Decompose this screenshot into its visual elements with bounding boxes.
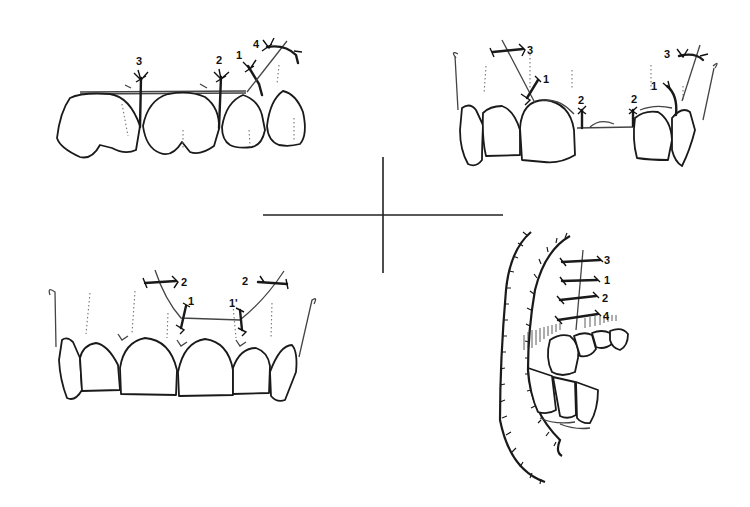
tooth	[267, 91, 305, 146]
tooth	[233, 348, 270, 394]
panel-top-left: 3 2 1 4	[57, 38, 305, 158]
lip-left	[49, 290, 56, 347]
tooth	[483, 106, 520, 156]
label-1-left: 1	[543, 73, 549, 85]
label-3-left: 3	[527, 44, 533, 56]
panel-top-right: 3 1 2 2 1 3	[453, 40, 717, 166]
label-1-left: 1	[188, 295, 194, 307]
suture-1	[562, 280, 597, 281]
label-3: 3	[604, 254, 610, 266]
lip-right	[703, 63, 717, 120]
knot-icon	[134, 70, 148, 82]
label-2-right: 2	[242, 275, 248, 287]
tooth	[57, 94, 140, 158]
tooth	[528, 368, 556, 413]
tooth	[553, 377, 576, 418]
tooth	[460, 105, 483, 165]
suture-1-left	[181, 306, 186, 328]
tooth	[592, 331, 612, 348]
label-1: 1	[604, 274, 610, 286]
tooth	[270, 345, 297, 401]
suture-1-right	[667, 86, 676, 115]
panel-bottom-right: 3 1 2 4	[500, 232, 628, 484]
dental-suture-diagram: 3 2 1 4	[0, 0, 750, 507]
suture-3	[140, 78, 141, 127]
tooth	[672, 110, 695, 166]
label-4: 4	[603, 310, 610, 322]
label-4: 4	[253, 38, 260, 50]
label-1-right: 1	[651, 80, 657, 92]
tooth	[80, 343, 120, 391]
suture-1-left	[527, 80, 538, 98]
label-2-left: 2	[578, 94, 584, 106]
tooth	[178, 339, 233, 396]
label-2: 2	[602, 292, 608, 304]
lip-right	[299, 299, 316, 357]
tooth	[520, 100, 575, 162]
label-1: 1	[236, 49, 242, 61]
knot-icon	[262, 38, 302, 52]
suture-2-right	[258, 282, 287, 284]
tooth	[634, 112, 672, 160]
label-2: 2	[216, 54, 222, 66]
label-2-right: 2	[631, 93, 637, 105]
bridge-line	[577, 127, 634, 128]
label-1-right: 1'	[229, 297, 238, 309]
label-3: 3	[136, 55, 142, 67]
suture-2	[219, 77, 221, 128]
suture-4	[558, 314, 598, 320]
tooth	[143, 93, 219, 155]
tooth	[222, 95, 265, 148]
suture-2	[560, 296, 596, 300]
label-3-right: 3	[664, 48, 670, 60]
lip-left	[453, 53, 458, 110]
label-2-left: 2	[181, 276, 187, 288]
tooth	[548, 335, 578, 375]
suture-2-left	[145, 281, 176, 283]
crosshair-divider	[263, 157, 503, 273]
panel-bottom-left: 2 2 1 1'	[49, 270, 315, 401]
tooth	[120, 338, 177, 395]
suture-1	[248, 66, 262, 95]
suture-3-left	[493, 49, 523, 52]
tooth	[59, 338, 82, 399]
tooth	[576, 382, 598, 423]
outer-gum-line	[500, 232, 545, 482]
tooth	[610, 329, 628, 350]
suture-1-right	[240, 310, 242, 330]
suture-3	[562, 260, 600, 262]
